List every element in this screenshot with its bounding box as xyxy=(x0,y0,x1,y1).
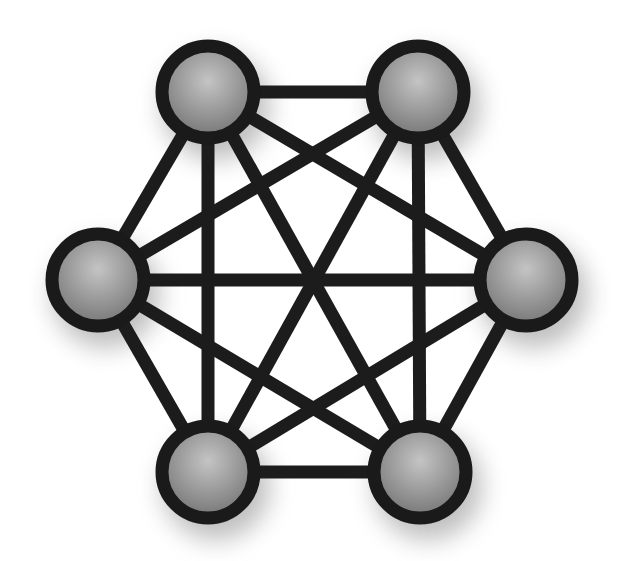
edges xyxy=(98,92,526,472)
node-top-right xyxy=(372,46,464,138)
complete-graph-diagram xyxy=(0,0,622,561)
node-bottom-left xyxy=(162,426,254,518)
node-left xyxy=(52,234,144,326)
node-bottom-right xyxy=(374,426,466,518)
node-right xyxy=(480,234,572,326)
node-top-left xyxy=(162,46,254,138)
